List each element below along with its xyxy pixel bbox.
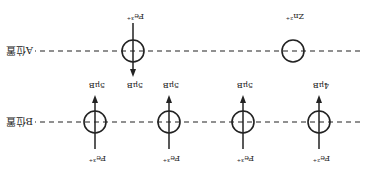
ion-label: Fe³⁺	[163, 154, 180, 163]
spin-up-arrow-icon	[240, 95, 246, 103]
moment-label: 4μB	[313, 81, 329, 90]
ion-label: Fe²⁺	[313, 154, 330, 163]
ion-label: Zn²⁺	[286, 12, 304, 21]
spin-up-arrow-icon	[92, 95, 98, 103]
ion-label: Fe³⁺	[89, 154, 106, 163]
moment-label: 5μB	[163, 81, 179, 90]
moment-label: 5μB	[127, 81, 143, 90]
a-site-label: A位置	[6, 45, 34, 57]
spin-down-arrow-icon	[130, 69, 136, 77]
a-ion-1: Zn²⁺	[282, 12, 304, 62]
ion-label: Fe³⁺	[127, 12, 144, 21]
moment-label: 5μB	[237, 81, 253, 90]
spin-up-arrow-icon	[166, 95, 172, 103]
moment-label: 5μB	[89, 81, 105, 90]
spin-up-arrow-icon	[316, 95, 322, 103]
ion-label: Fe³⁺	[237, 154, 254, 163]
a-site-row: A位置 Zn²⁺ 5μB Fe³⁺	[6, 12, 360, 90]
b-site-row: B位置 Fe²⁺ 4μB Fe³⁺ 5μB Fe³⁺ 5μB Fe³⁺	[6, 81, 360, 163]
spin-diagram: B位置 Fe²⁺ 4μB Fe³⁺ 5μB Fe³⁺ 5μB Fe³⁺	[0, 0, 365, 171]
b-site-label: B位置	[6, 116, 33, 128]
